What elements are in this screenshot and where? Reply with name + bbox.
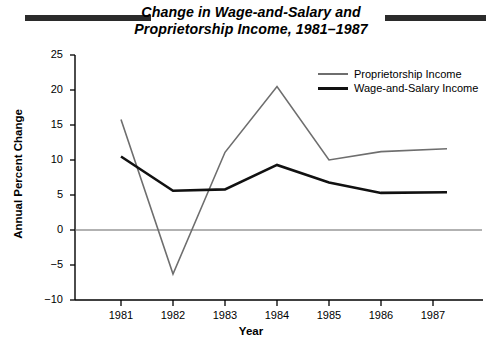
x-axis-title: Year — [0, 325, 502, 337]
legend-label-wage: Wage-and-Salary Income — [354, 82, 478, 94]
y-tick-label: 5 — [29, 188, 63, 200]
chart-series-group — [121, 87, 447, 275]
legend-swatch-wage-icon — [318, 87, 348, 90]
x-tick-label: 1987 — [411, 309, 455, 321]
y-tick-label: 10 — [29, 153, 63, 165]
chart-legend: Proprietorship Income Wage-and-Salary In… — [318, 68, 478, 96]
legend-item-proprietorship: Proprietorship Income — [318, 68, 478, 80]
y-tick-label: −5 — [29, 258, 63, 270]
x-tick-label: 1985 — [307, 309, 351, 321]
chart-plot-area: 2520151050−5−10 198119821983198419851986… — [0, 0, 502, 343]
x-tick-label: 1983 — [203, 309, 247, 321]
x-tick-label: 1986 — [359, 309, 403, 321]
y-tick-label: −10 — [29, 293, 63, 305]
legend-label-proprietorship: Proprietorship Income — [354, 68, 462, 80]
y-tick-label: 25 — [29, 48, 63, 60]
x-tick-label: 1984 — [255, 309, 299, 321]
x-tick-label: 1981 — [99, 309, 143, 321]
line-chart-svg — [0, 0, 502, 343]
y-axis-title: Annual Percent Change — [12, 94, 24, 254]
legend-item-wage: Wage-and-Salary Income — [318, 82, 478, 94]
y-tick-label: 20 — [29, 83, 63, 95]
legend-swatch-proprietorship-icon — [318, 73, 348, 75]
y-tick-label: 0 — [29, 223, 63, 235]
x-tick-label: 1982 — [151, 309, 195, 321]
y-tick-label: 15 — [29, 118, 63, 130]
